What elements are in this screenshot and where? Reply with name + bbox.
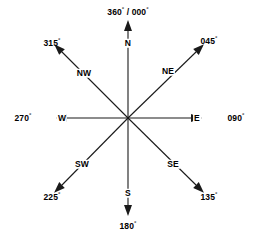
ray-line-southwest — [62, 118, 128, 185]
ray-south — [124, 118, 132, 216]
direction-label-east: E — [193, 114, 201, 123]
ray-line-northwest — [62, 52, 128, 118]
ray-east — [128, 114, 202, 122]
ray-southwest — [54, 118, 128, 193]
bearing-label-west: 270° — [15, 114, 32, 123]
ray-northwest — [54, 44, 128, 118]
bearing-label-north: 360° / 000° — [107, 8, 148, 17]
ray-northeast — [128, 44, 204, 118]
bearing-label-northeast: 045° — [201, 37, 218, 46]
bearing-label-northwest: 315° — [44, 39, 61, 48]
ray-southeast — [128, 118, 204, 193]
direction-label-southwest: SW — [74, 160, 90, 169]
compass-rays — [0, 0, 258, 240]
direction-label-south: S — [124, 189, 132, 198]
ray-line-northeast — [128, 52, 196, 118]
bearing-label-south: 180° — [120, 222, 137, 231]
ray-north — [124, 20, 132, 118]
direction-label-southeast: SE — [166, 160, 180, 169]
ray-line-southeast — [128, 118, 196, 185]
direction-label-north: N — [124, 39, 132, 48]
compass-rose-diagram: N360° / 000°NE045°E090°SE135°S180°SW225°… — [0, 0, 258, 240]
direction-label-northwest: NW — [76, 69, 93, 78]
bearing-label-southwest: 225° — [44, 193, 61, 202]
arrowhead-north — [124, 20, 132, 31]
direction-label-west: W — [57, 114, 67, 123]
arrowhead-south — [124, 205, 132, 216]
bearing-label-southeast: 135° — [201, 193, 218, 202]
direction-label-northeast: NE — [161, 67, 175, 76]
bearing-label-east: 090° — [228, 114, 245, 123]
